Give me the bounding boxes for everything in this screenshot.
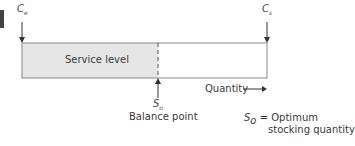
quantity-arrow-head [262,86,267,92]
balance-symbol: So [153,98,163,111]
legend-text1: = Optimum [260,112,318,123]
balance-point-label: Balance point [129,111,198,122]
legend-symbol-sub: o [250,115,256,126]
cs-arrow-head [264,37,270,43]
so-sub: o [159,104,163,111]
balance-arrow-head [155,78,161,84]
ce-arrow-head [19,37,25,43]
quantity-axis-label: Quantity [205,83,248,94]
service-level-label: Service level [65,54,129,65]
legend-line2: stocking quantity [268,124,355,135]
